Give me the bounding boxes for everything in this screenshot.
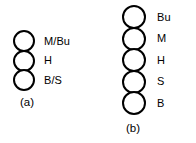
- diagram-panel-b: Bu M H S B (b): [98, 0, 196, 143]
- bead-label: B/S: [44, 75, 62, 86]
- bead-circle: [122, 91, 146, 115]
- bead-label: H: [44, 55, 52, 66]
- bead-circle: [13, 69, 35, 91]
- bead-label: Bu: [157, 12, 171, 23]
- bead-row: S: [122, 70, 146, 94]
- bead-circle: [122, 70, 146, 94]
- figure-canvas: M/Bu H B/S (a) Bu M: [0, 0, 196, 143]
- bead-row: Bu: [122, 5, 146, 29]
- diagram-panel-a: M/Bu H B/S (a): [0, 0, 98, 143]
- bead-stack-b: Bu M H S B: [122, 5, 146, 115]
- bead-label: M/Bu: [44, 36, 70, 47]
- bead-circle: [13, 30, 35, 52]
- panel-caption-b: (b): [126, 122, 140, 134]
- bead-stack-a: M/Bu H B/S: [13, 30, 35, 91]
- bead-row: H: [122, 48, 146, 72]
- bead-label: H: [157, 55, 165, 66]
- bead-circle: [122, 27, 146, 51]
- bead-circle: [122, 5, 146, 29]
- bead-row: M: [122, 27, 146, 51]
- bead-label: M: [157, 33, 166, 44]
- bead-label: B: [157, 98, 164, 109]
- panel-caption-a: (a): [20, 96, 34, 108]
- bead-row: B: [122, 91, 146, 115]
- bead-row: M/Bu: [13, 30, 35, 52]
- bead-circle: [122, 48, 146, 72]
- bead-label: S: [157, 76, 164, 87]
- bead-row: B/S: [13, 69, 35, 91]
